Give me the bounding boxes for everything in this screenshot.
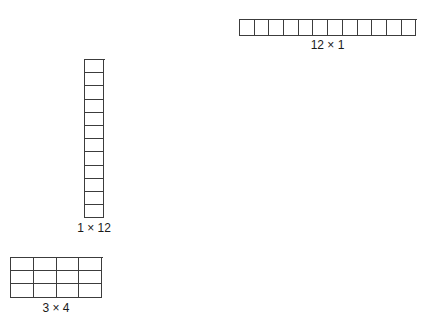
array-cell <box>79 284 102 297</box>
array-cell <box>79 271 102 284</box>
array-cell <box>34 271 57 284</box>
array-1x12: 1 × 12 <box>84 59 123 236</box>
array-cell <box>85 166 104 179</box>
array-cell <box>34 284 57 297</box>
array-cell <box>255 20 270 36</box>
array-cell <box>85 179 104 192</box>
array-cell <box>85 86 104 99</box>
array-cell <box>85 60 104 73</box>
array-cell <box>85 139 104 152</box>
diagram-canvas: 12 × 1 1 × 12 3 × 4 <box>0 0 442 330</box>
array-cell <box>85 205 104 218</box>
array-cell <box>299 20 314 36</box>
array-1x12-label: 1 × 12 <box>65 221 123 236</box>
array-cell <box>34 258 57 271</box>
array-cell <box>57 258 80 271</box>
array-cell <box>85 73 104 86</box>
array-cell <box>402 20 417 36</box>
array-1x12-grid <box>84 59 105 218</box>
array-cell <box>328 20 343 36</box>
array-cell <box>57 271 80 284</box>
array-12x1-grid <box>239 19 417 36</box>
array-cell <box>85 113 104 126</box>
array-cell <box>11 284 34 297</box>
array-3x4-label: 3 × 4 <box>10 301 102 316</box>
array-cell <box>85 152 104 165</box>
array-3x4-grid <box>10 257 103 298</box>
array-3x4: 3 × 4 <box>10 257 103 316</box>
array-cell <box>11 271 34 284</box>
array-12x1-label: 12 × 1 <box>239 38 416 53</box>
array-cell <box>85 126 104 139</box>
array-cell <box>387 20 402 36</box>
array-cell <box>269 20 284 36</box>
array-cell <box>85 192 104 205</box>
array-cell <box>358 20 373 36</box>
array-cell <box>57 284 80 297</box>
array-cell <box>79 258 102 271</box>
array-12x1: 12 × 1 <box>239 19 417 53</box>
array-cell <box>343 20 358 36</box>
array-cell <box>284 20 299 36</box>
array-cell <box>313 20 328 36</box>
array-cell <box>240 20 255 36</box>
clipped-top-caption <box>108 0 348 1</box>
array-cell <box>11 258 34 271</box>
array-cell <box>85 100 104 113</box>
array-cell <box>372 20 387 36</box>
